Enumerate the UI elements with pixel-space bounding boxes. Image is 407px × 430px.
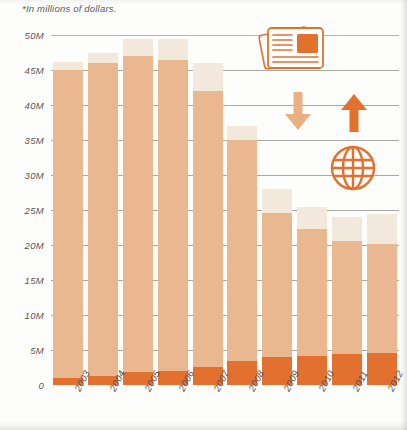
y-axis-tick-label: 25M (4, 205, 44, 216)
y-axis-tick-label: 50M (4, 30, 44, 41)
bar-segment-middle-segment (227, 140, 257, 361)
bar-segment-middle-segment (88, 63, 118, 376)
y-axis-tick-label: 0 (4, 380, 44, 391)
bar-2009 (262, 189, 292, 385)
bar-segment-middle-segment (262, 213, 292, 357)
bar-2012 (367, 214, 397, 386)
y-axis-tick-label: 5M (4, 345, 44, 356)
scan-edge-top (0, 0, 407, 5)
bar-segment-middle-segment (193, 91, 223, 367)
bar-2008 (227, 126, 257, 385)
bar-segment-middle-segment (123, 56, 153, 372)
bar-segment-middle-segment (53, 70, 83, 378)
bar-segment-upper-segment (53, 62, 83, 70)
bar-segment-upper-segment (88, 53, 118, 64)
bar-segment-middle-segment (158, 60, 188, 372)
y-axis-tick-label: 15M (4, 275, 44, 286)
chart-figure: *In millions of dollars. 05M10M15M20M25M… (0, 0, 407, 430)
scan-edge-bottom (0, 421, 407, 430)
bar-segment-upper-segment (297, 207, 327, 229)
y-axis-tick-label: 20M (4, 240, 44, 251)
bar-segment-upper-segment (332, 217, 362, 241)
y-axis-tick-label: 45M (4, 65, 44, 76)
bar-2003 (53, 62, 83, 385)
y-axis-tick-label: 30M (4, 170, 44, 181)
bar-2006 (158, 39, 188, 386)
y-axis-tick-label: 35M (4, 135, 44, 146)
gridline (51, 35, 399, 36)
bar-2011 (332, 217, 362, 385)
bar-segment-middle-segment (297, 229, 327, 356)
bar-segment-upper-segment (158, 39, 188, 60)
scan-edge-right (400, 0, 407, 430)
y-axis-tick-label: 40M (4, 100, 44, 111)
bar-2005 (123, 39, 153, 386)
bar-segment-upper-segment (123, 39, 153, 57)
bar-2007 (193, 63, 223, 385)
bar-2004 (88, 53, 118, 386)
bar-segment-middle-segment (367, 244, 397, 353)
y-axis-tick-label: 10M (4, 310, 44, 321)
bar-segment-upper-segment (193, 63, 223, 91)
plot-area (51, 35, 399, 385)
bar-2010 (297, 207, 327, 386)
bar-segment-upper-segment (367, 214, 397, 244)
bar-segment-middle-segment (332, 241, 362, 354)
bar-segment-upper-segment (262, 189, 292, 213)
bar-segment-upper-segment (227, 126, 257, 140)
